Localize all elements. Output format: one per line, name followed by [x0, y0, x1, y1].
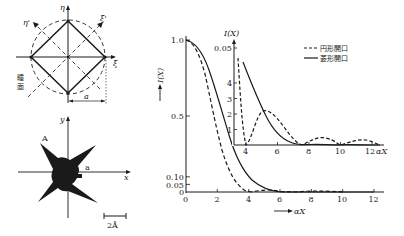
- y-tick-1.0: 1.0: [171, 36, 184, 45]
- x-tick-12: 12: [369, 195, 379, 204]
- inset-y-tick-1: 1: [227, 126, 232, 135]
- x-tick-4: 4: [246, 195, 251, 204]
- scale-label: 2Å: [107, 221, 118, 230]
- y-tick-0.5: 0.5: [171, 112, 184, 121]
- x-tick-10: 10: [337, 195, 347, 204]
- inset-x-tick-6: 6: [275, 147, 280, 156]
- arrow-right-icon: [288, 209, 293, 213]
- dimension-arrow-icon: [101, 100, 105, 103]
- legend-label-circular: 円形開口: [320, 45, 348, 53]
- eta-arrow-icon: [66, 5, 70, 10]
- origin-dot: [67, 56, 69, 58]
- inset-x-tick-12: 12: [365, 147, 375, 156]
- inset-y-tick-0.05: 0.05: [214, 44, 232, 53]
- x-label: x: [124, 173, 129, 182]
- arrow-up-icon: [158, 84, 162, 89]
- x-axis-label: αX: [294, 207, 305, 216]
- inset-y-tick-3: 3: [227, 95, 232, 104]
- y-arrow-icon: [66, 116, 70, 121]
- inset-y-label: I(X): [223, 29, 239, 38]
- dimension-arrow-icon: [69, 100, 73, 103]
- figure-canvas: a η ξ η' ξ' 瞳 面 A a y x 2Å 1.0: [0, 0, 404, 236]
- pupil-diagram: a η ξ η' ξ' 瞳 面: [16, 3, 118, 104]
- psf-diagram: A a y x 2Å: [18, 115, 131, 230]
- inset-x-label: αX: [376, 147, 387, 156]
- xi-prime-label: ξ': [100, 14, 107, 23]
- inset-x-tick-4: 4: [243, 147, 248, 156]
- inset-chart: 1 2 3 4 0.05 I(X) 4 6 8 10 12 αX 円形開口 菱形…: [214, 29, 387, 156]
- legend-label-rhombic: 菱形開口: [320, 54, 348, 63]
- x-tick-6: 6: [277, 195, 282, 204]
- vertex-dot: [66, 91, 69, 94]
- pupil-plane-label-2: 面: [17, 83, 24, 91]
- inset-x-tick-10: 10: [335, 147, 345, 156]
- y-axis-label: I(X): [156, 68, 165, 84]
- inset-y-tick-4: 4: [227, 79, 232, 88]
- vertex-dot: [29, 55, 32, 58]
- eta-label: η: [60, 3, 65, 12]
- inset-x-tick-8: 8: [306, 147, 311, 156]
- vertex-dot: [103, 55, 106, 58]
- dimension-label: a: [84, 92, 89, 101]
- a-label: a: [85, 163, 90, 172]
- y-label: y: [59, 115, 65, 124]
- A-label: A: [41, 134, 48, 143]
- x-tick-8: 8: [309, 195, 314, 204]
- inset-y-tick-2: 2: [227, 110, 232, 119]
- eta-prime-label: η': [23, 18, 30, 27]
- xi-label: ξ: [113, 59, 118, 68]
- xi-prime-axis: [28, 24, 101, 97]
- x-tick-0: 0: [183, 195, 188, 204]
- vertex-dot: [66, 19, 69, 22]
- pupil-plane-label-1: 瞳: [17, 73, 24, 82]
- x-tick-2: 2: [215, 195, 220, 204]
